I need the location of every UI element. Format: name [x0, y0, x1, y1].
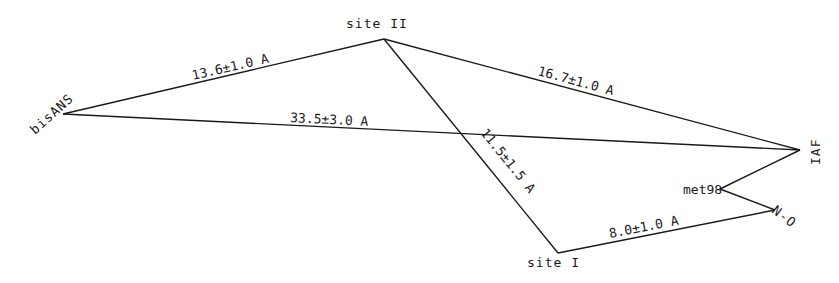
edge-label-bisans-siteII: 13.6±1.0 A	[190, 51, 270, 83]
edge-label-siteII-iaf: 16.7±1.0 A	[536, 63, 616, 98]
edge-met98-no	[720, 189, 775, 210]
edge-siteII-siteI	[384, 39, 558, 253]
distance-diagram: 13.6±1.0 A 16.7±1.0 A 33.5±3.0 A 11.5±1.…	[0, 0, 839, 283]
edge-bisans-iaf	[63, 114, 800, 150]
edge-bisans-siteII	[63, 39, 384, 114]
node-label-no: N-O	[769, 203, 799, 231]
node-label-iaf: IAF	[808, 139, 823, 165]
node-label-siteI: site I	[527, 255, 580, 270]
edge-iaf-met98	[720, 150, 800, 189]
edge-label-siteI-no: 8.0±1.0 A	[608, 213, 680, 241]
node-label-siteII: site II	[346, 16, 408, 31]
node-label-met98: met98	[683, 182, 722, 197]
